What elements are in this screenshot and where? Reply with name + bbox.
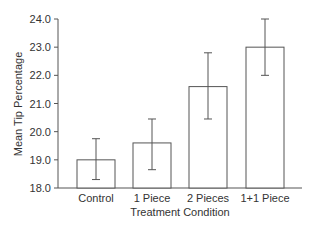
bar-control: [77, 139, 115, 188]
x-axis: Control1 Piece2 Pieces1+1 Piece: [58, 188, 302, 204]
y-axis: 18.019.020.021.022.023.024.0: [30, 13, 58, 194]
bar-1-1-piece: [246, 19, 284, 188]
x-tick-label: 2 Pieces: [187, 192, 230, 204]
x-tick-label: 1+1 Piece: [240, 192, 289, 204]
x-axis-label: Treatment Condition: [130, 206, 229, 218]
bars: [77, 19, 284, 188]
x-tick-label: Control: [78, 192, 113, 204]
bar-1-piece: [133, 119, 171, 188]
y-tick-label: 21.0: [30, 98, 51, 110]
y-tick-label: 18.0: [30, 182, 51, 194]
x-tick-label: 1 Piece: [134, 192, 171, 204]
y-tick-label: 20.0: [30, 126, 51, 138]
bar-2-pieces: [189, 53, 227, 188]
bar-chart: 18.019.020.021.022.023.024.0 Control1 Pi…: [0, 0, 313, 225]
y-tick-label: 19.0: [30, 154, 51, 166]
y-tick-label: 24.0: [30, 13, 51, 25]
y-tick-label: 22.0: [30, 69, 51, 81]
y-axis-label: Mean Tip Percentage: [12, 52, 24, 157]
y-tick-label: 23.0: [30, 41, 51, 53]
